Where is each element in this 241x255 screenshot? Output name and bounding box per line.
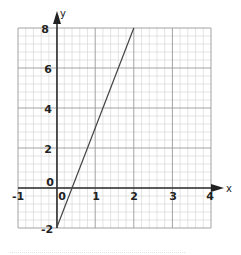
major-grid: [18, 28, 211, 228]
x-tick-label: 4: [206, 190, 214, 203]
y-tick-label: 2: [44, 143, 52, 156]
x-axis-label: x: [226, 183, 232, 194]
x-tick-label: 0: [58, 190, 66, 203]
y-tick-label: -2: [41, 223, 53, 236]
x-tick-label: 1: [92, 190, 100, 203]
minor-grid: [18, 28, 211, 228]
x-tick-label: -1: [12, 190, 24, 203]
x-tick-label: 3: [169, 190, 177, 203]
line-graph: y x 8 6 4 2 0 -2 -1 0 1 2 3 4: [0, 0, 241, 255]
y-axis-label: y: [60, 8, 66, 19]
y-tick-label: 6: [44, 63, 52, 76]
y-tick-label: 4: [44, 103, 52, 116]
y-tick-label: 0: [46, 176, 54, 189]
x-tick-label: 2: [130, 190, 138, 203]
y-tick-label: 8: [41, 23, 49, 36]
divider: [10, 252, 185, 254]
